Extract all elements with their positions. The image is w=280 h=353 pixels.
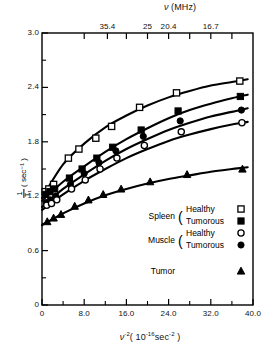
x-tick-label: 0 [40, 309, 45, 318]
legend-group-label: Tumor [151, 266, 175, 276]
legend-group-label: Spleen [149, 211, 175, 221]
x-tick-label: 32.0 [203, 309, 219, 318]
chart-figure [0, 0, 280, 353]
legend-item-label: Healthy [186, 204, 215, 214]
top-tick-label: 25 [143, 22, 152, 31]
legend-markers [237, 206, 244, 274]
x-tick-label: 16.0 [118, 309, 134, 318]
axis-ticks [42, 33, 253, 305]
y-tick-label: 2.4 [28, 82, 39, 91]
x-tick-label: 40.0 [245, 309, 261, 318]
y-tick-label: 1.8 [28, 137, 39, 146]
y-tick-label: 0 [34, 300, 39, 309]
axis-frame [42, 33, 253, 305]
x-tick-label: 8.0 [78, 309, 89, 318]
legend-group-label: Muscle [148, 235, 175, 245]
legend-brace: ( [178, 209, 183, 225]
legend-item-label: Tumorous [186, 240, 224, 250]
y-axis-numerator: 1 [16, 189, 24, 198]
y-axis-units: ( sec⁻¹ ) [19, 158, 28, 187]
y-tick-label: 0.6 [28, 246, 39, 255]
top-tick-label: 20.4 [161, 22, 177, 31]
legend-item-label: Tumorous [186, 216, 224, 226]
fit-curves [42, 79, 248, 225]
top-tick-label: 35.4 [99, 22, 115, 31]
legend-brace: ( [178, 233, 183, 249]
y-tick-label: 3.0 [28, 28, 39, 37]
x-axis-title: ν-2( 10-16sec-2 ) [120, 331, 181, 342]
top-tick-label: 16.7 [203, 22, 219, 31]
legend-item-label: Healthy [186, 228, 215, 238]
y-tick-label: 1.2 [28, 191, 39, 200]
x-tick-label: 24.0 [161, 309, 177, 318]
top-axis-title: ν (MHz) [164, 2, 196, 12]
